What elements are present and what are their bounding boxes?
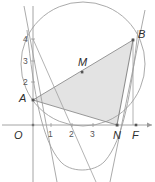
point-marker-F: [135, 124, 138, 127]
shaded-triangle-ABN: [33, 40, 133, 125]
y-tick-label-2: 2: [23, 78, 28, 87]
point-label-M: M: [78, 57, 87, 68]
point-marker-A: [32, 99, 35, 102]
y-tick-label-4: 4: [23, 35, 28, 44]
diagram-canvas: [0, 0, 155, 182]
x-axis-arrow-icon: [147, 123, 152, 128]
point-marker-M: [81, 71, 84, 74]
point-label-F: F: [132, 130, 139, 141]
point-marker-N: [116, 124, 119, 127]
point-label-B: B: [138, 29, 145, 40]
geometry-diagram-figure: A B M N F O 1 2 3 2 3 4: [0, 0, 155, 182]
point-marker-B: [132, 39, 135, 42]
x-tick-label-3: 3: [90, 130, 95, 139]
x-tick-label-2: 2: [69, 130, 74, 139]
x-tick-label-1: 1: [48, 130, 53, 139]
point-label-N: N: [113, 130, 121, 141]
point-label-O: O: [14, 130, 23, 141]
point-label-A: A: [19, 93, 26, 104]
y-tick-label-3: 3: [23, 57, 28, 66]
point-marker-origin: [32, 124, 34, 126]
